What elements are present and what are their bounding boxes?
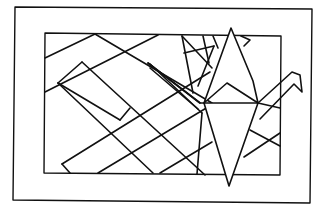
background-line bbox=[197, 113, 202, 174]
background-line bbox=[160, 142, 212, 173]
crane-illustration: Origami crane over geometric line patter… bbox=[0, 0, 324, 209]
background-line bbox=[182, 36, 193, 93]
background-line bbox=[120, 108, 130, 120]
background-line bbox=[45, 34, 95, 58]
background-line bbox=[45, 35, 158, 92]
crane-tail-fold bbox=[150, 68, 198, 109]
background-line bbox=[258, 103, 280, 108]
background-line bbox=[58, 83, 153, 173]
background-line bbox=[62, 164, 70, 173]
crane-body bbox=[204, 103, 258, 186]
background-line bbox=[184, 46, 214, 53]
crane-wing-tip bbox=[241, 36, 250, 46]
background-line bbox=[95, 34, 212, 103]
crane-tail bbox=[148, 63, 204, 103]
